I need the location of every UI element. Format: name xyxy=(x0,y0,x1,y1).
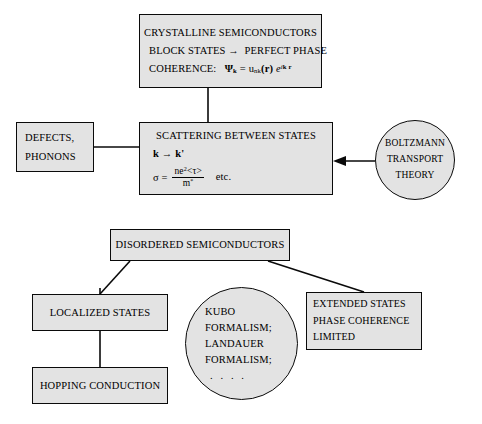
extended-line-3: LIMITED xyxy=(307,332,421,343)
crystalline-bloch-states: BLOCK STATES → PERFECT PHASE xyxy=(140,45,321,56)
connector-disordered-to-extended xyxy=(268,261,364,292)
scattering-k-transition: k → k' xyxy=(140,148,332,159)
exp-k: k xyxy=(283,63,287,70)
numerator-tau: <τ> xyxy=(187,166,202,176)
boltzmann-line-3: THEORY xyxy=(396,171,435,181)
equals-sign: = xyxy=(240,63,246,74)
hopping-title: HOPPING CONDUCTION xyxy=(33,380,167,391)
denominator-star: * xyxy=(190,178,193,184)
kubo-line-2: FORMALISM; xyxy=(186,322,297,333)
node-boltzmann-transport-theory: BOLTZMANN TRANSPORT THEORY xyxy=(375,120,455,200)
extended-line-1: EXTENDED STATES xyxy=(307,299,421,310)
node-crystalline-semiconductors: CRYSTALLINE SEMICONDUCTORS BLOCK STATES … xyxy=(139,14,322,88)
node-defects-phonons: DEFECTS, PHONONS xyxy=(16,122,94,172)
node-hopping-conduction: HOPPING CONDUCTION xyxy=(32,367,168,404)
crystalline-line2-b: PERFECT PHASE xyxy=(245,45,328,56)
fraction-numerator: ne2<τ> xyxy=(172,166,203,177)
kubo-line-3: LANDAUER xyxy=(186,338,297,349)
node-disordered-semiconductors: DISORDERED SEMICONDUCTORS xyxy=(110,229,290,261)
numerator-ne: ne xyxy=(174,166,183,176)
wavefunction-psi: Ψ xyxy=(225,63,233,74)
diagram-canvas: CRYSTALLINE SEMICONDUCTORS BLOCK STATES … xyxy=(0,0,482,424)
node-scattering-between-states: SCATTERING BETWEEN STATES k → k' σ = ne2… xyxy=(139,122,333,195)
arrowhead-icon xyxy=(333,156,346,166)
extended-line-2: PHASE COHERENCE xyxy=(307,316,421,327)
disordered-title: DISORDERED SEMICONDUCTORS xyxy=(111,239,289,250)
connector-disordered-to-localized xyxy=(100,261,130,294)
conductivity-fraction: ne2<τ> m* xyxy=(172,166,203,188)
boltzmann-line-2: TRANSPORT xyxy=(387,155,443,165)
k-from: k xyxy=(153,148,159,159)
defects-line-1: DEFECTS, xyxy=(17,132,93,143)
node-kubo-landauer-formalism: KUBO FORMALISM; LANDAUER FORMALISM; . . … xyxy=(185,287,298,400)
crystalline-line2-a: BLOCK STATES xyxy=(149,45,226,56)
right-arrow-icon: → xyxy=(228,45,239,56)
k-to: k' xyxy=(175,148,184,159)
boltzmann-line-1: BOLTZMANN xyxy=(385,139,445,149)
kubo-line-4: FORMALISM; xyxy=(186,354,297,365)
localized-title: LOCALIZED STATES xyxy=(33,307,167,318)
psi-subscript: k xyxy=(233,68,237,75)
fraction-denominator: m* xyxy=(172,177,203,189)
k-arrow-icon: → xyxy=(162,148,173,159)
bloch-u-arg: (r) xyxy=(261,63,273,74)
exp-superscript: ik r xyxy=(281,63,292,70)
scattering-conductivity-formula: σ = ne2<τ> m* etc. xyxy=(140,167,332,189)
kubo-line-1: KUBO xyxy=(186,306,297,317)
sigma-equals: = xyxy=(162,171,168,182)
exp-r: r xyxy=(289,63,292,70)
node-localized-states: LOCALIZED STATES xyxy=(32,294,168,331)
crystalline-title: CRYSTALLINE SEMICONDUCTORS xyxy=(140,27,321,38)
node-extended-states: EXTENDED STATES PHASE COHERENCE LIMITED xyxy=(306,292,422,350)
kubo-ellipsis: . . . . xyxy=(186,370,297,381)
sigma-symbol: σ xyxy=(153,171,159,182)
defects-line-2: PHONONS xyxy=(17,151,93,162)
bloch-u-subscript: nk xyxy=(254,68,261,75)
crystalline-coherence: COHERENCE: Ψk = unk(r) eik r xyxy=(140,63,321,75)
formula-etc: etc. xyxy=(216,171,231,182)
crystalline-coherence-label: COHERENCE: xyxy=(149,63,216,74)
scattering-title: SCATTERING BETWEEN STATES xyxy=(140,130,332,141)
